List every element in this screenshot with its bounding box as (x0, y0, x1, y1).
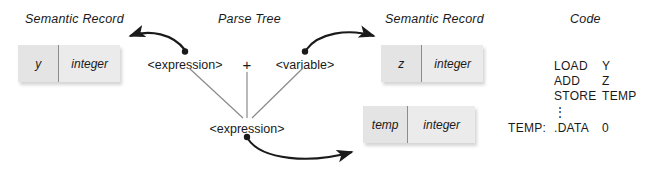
code-arg: TEMP (602, 89, 637, 103)
record-temp-type: integer (407, 106, 475, 143)
code-arg: 0 (602, 121, 609, 135)
tree-edge-right (252, 68, 303, 118)
tree-edge-left (189, 68, 243, 118)
diagram-canvas: Semantic Record Parse Tree Semantic Reco… (0, 0, 669, 170)
code-op: .DATA (554, 121, 602, 135)
record-z-name: z (381, 45, 421, 82)
record-y-type: integer (58, 45, 120, 82)
header-semantic-record-right: Semantic Record (385, 12, 484, 26)
code-line: ADD Z (508, 73, 637, 88)
arrow-expression-to-record-y (130, 33, 185, 50)
code-op: STORE (554, 89, 602, 103)
code-op: LOAD (554, 59, 602, 73)
code-op: ADD (554, 74, 602, 88)
tree-node-operator: + (243, 56, 252, 73)
header-semantic-record-left: Semantic Record (25, 12, 124, 26)
code-vertical-ellipsis: ⋮ (508, 103, 637, 120)
code-ellipsis-glyph: ⋮ (554, 105, 600, 119)
tree-node-root-expression: <expression> (209, 122, 284, 136)
record-box-z: z integer (381, 45, 483, 82)
arrow-expression-to-record-temp (248, 139, 352, 159)
header-code: Code (570, 12, 601, 26)
record-temp-name: temp (363, 106, 407, 143)
attachment-dot-left-expression (182, 48, 188, 54)
record-box-temp: temp integer (363, 106, 475, 143)
code-arg: Y (602, 59, 610, 73)
code-listing: LOAD Y ADD Z STORE TEMP ⋮ TEMP: .DATA 0 (508, 58, 637, 135)
record-y-name: y (18, 45, 58, 82)
tree-node-left-expression: <expression> (147, 58, 222, 72)
code-line: STORE TEMP (508, 88, 637, 103)
code-line: LOAD Y (508, 58, 637, 73)
tree-node-right-variable: <variable> (276, 58, 334, 72)
header-parse-tree: Parse Tree (218, 12, 281, 26)
attachment-dot-right-variable (302, 48, 308, 54)
record-z-type: integer (421, 45, 483, 82)
code-line: TEMP: .DATA 0 (508, 120, 637, 135)
arrow-variable-to-record-z (306, 32, 374, 50)
code-arg: Z (602, 74, 610, 88)
record-box-y: y integer (18, 45, 120, 82)
code-label: TEMP: (508, 121, 554, 135)
